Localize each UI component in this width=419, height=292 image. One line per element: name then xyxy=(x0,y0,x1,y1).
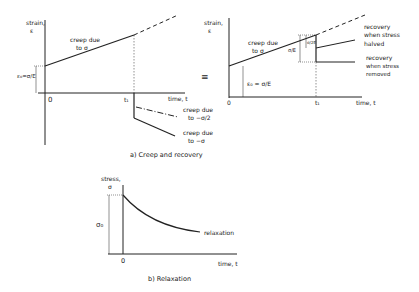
svg-text:to −σ/2: to −σ/2 xyxy=(188,114,211,121)
left-origin: 0 xyxy=(48,96,52,104)
svg-text:σ₀: σ₀ xyxy=(96,221,103,229)
svg-text:when stress: when stress xyxy=(366,63,399,69)
recovery-halved-line xyxy=(316,40,355,48)
left-strain-chart: strain, ε 0 t₁ time, t ε₀=σ/E creep due … xyxy=(17,15,213,145)
right-strain-chart: strain, ε 0 t₁ time, t ε₀ = σ/E creep du… xyxy=(204,15,400,106)
left-x-label: time, t xyxy=(168,95,188,102)
svg-text:creep due: creep due xyxy=(183,129,213,137)
svg-text:0: 0 xyxy=(227,99,231,106)
full-negative-creep-line xyxy=(134,118,175,136)
svg-text:0: 0 xyxy=(121,257,125,265)
svg-text:σ/2E: σ/2E xyxy=(307,40,316,45)
svg-text:to σ: to σ xyxy=(76,44,88,51)
svg-text:t₁: t₁ xyxy=(315,99,320,106)
svg-text:ε₀ = σ/E: ε₀ = σ/E xyxy=(247,80,271,87)
left-y-label: strain, xyxy=(26,19,45,26)
svg-text:halved: halved xyxy=(364,40,384,47)
relaxation-chart: stress, σ σ₀ 0 time, t relaxation xyxy=(96,175,238,267)
svg-text:creep due: creep due xyxy=(183,106,213,114)
left-t1: t₁ xyxy=(124,96,129,103)
svg-text:creep due: creep due xyxy=(248,39,278,47)
creep-relaxation-diagram: strain, ε 0 t₁ time, t ε₀=σ/E creep due … xyxy=(0,0,419,292)
svg-text:removed: removed xyxy=(366,71,390,77)
svg-text:relaxation: relaxation xyxy=(204,229,234,236)
svg-text:to −σ: to −σ xyxy=(188,137,205,144)
svg-text:strain,: strain, xyxy=(204,19,223,26)
left-creep-extension xyxy=(134,15,178,35)
svg-text:stress,: stress, xyxy=(101,175,121,182)
svg-text:ε: ε xyxy=(208,27,211,34)
svg-text:recovery: recovery xyxy=(366,54,393,62)
caption-b: b) Relaxation xyxy=(148,275,191,283)
svg-text:σ: σ xyxy=(108,183,112,190)
svg-text:creep due: creep due xyxy=(70,36,100,44)
svg-text:recovery: recovery xyxy=(364,23,391,31)
left-initial-strain: ε₀=σ/E xyxy=(17,73,36,79)
caption-a: a) Creep and recovery xyxy=(130,151,203,159)
svg-text:time, t: time, t xyxy=(218,260,238,267)
half-negative-creep-line xyxy=(136,107,178,117)
svg-text:ε: ε xyxy=(30,27,33,34)
svg-text:when stress: when stress xyxy=(364,31,400,38)
svg-text:to σ: to σ xyxy=(252,47,264,54)
relaxation-curve xyxy=(123,195,200,232)
equivalence-sign: ≡ xyxy=(201,72,209,82)
svg-text:σ/E: σ/E xyxy=(288,47,296,53)
svg-text:time, t: time, t xyxy=(356,99,376,106)
